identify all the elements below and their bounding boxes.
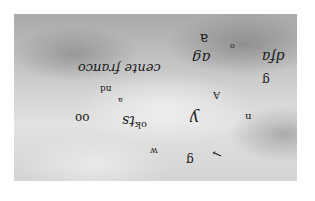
- glyph-dfa: dfa: [262, 50, 285, 64]
- glyph-a-top: a: [200, 32, 208, 46]
- glyph-cente-franco: cente franco: [78, 62, 161, 75]
- glyph-a-small: a: [118, 96, 123, 104]
- glyph-A: A: [213, 90, 220, 100]
- glyph-dash: –: [92, 66, 97, 75]
- glyph-g-right: g: [262, 74, 270, 86]
- glyph-ok: ok: [135, 120, 147, 130]
- glyph-g-bottom: g: [186, 154, 194, 166]
- arrow-glyph: ←: [210, 146, 224, 161]
- glyph-oo: oo: [75, 112, 89, 124]
- glyph-n: n: [245, 112, 251, 122]
- glyph-o: o: [230, 42, 235, 50]
- glyph-ts: ts: [122, 114, 135, 128]
- glyph-nd: nd: [100, 84, 112, 93]
- glyph-ag: ag: [192, 50, 211, 65]
- glyph-y: y: [190, 110, 199, 126]
- cloud-sky-photo: cente franco a o ag dfa g nd a – A oo ok…: [14, 14, 297, 181]
- glyph-w: w: [150, 146, 158, 155]
